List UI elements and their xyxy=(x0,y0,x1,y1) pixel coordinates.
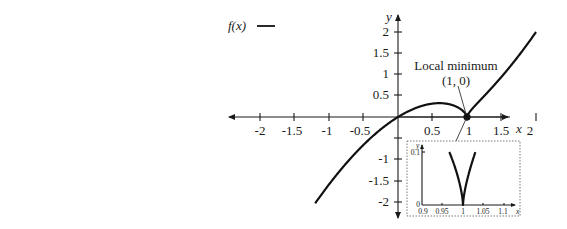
y-tick-label: 0.5 xyxy=(373,87,389,102)
y-tick-label: 2 xyxy=(383,24,390,39)
annotation-title: Local minimum xyxy=(414,58,497,73)
x-tick-label: -1.5 xyxy=(282,123,303,138)
x-tick-label: 1.5 xyxy=(493,123,509,138)
chart-figure: f(x) x y -2 -1.5 -1 -0.5 0.5 1 1.5 2 xyxy=(0,0,567,229)
x-tick-label: 0.5 xyxy=(424,123,440,138)
x-tick-label: 2 xyxy=(527,123,534,138)
inset-x-tick: 1.1 xyxy=(498,207,508,216)
inset-x-label: x xyxy=(515,207,520,216)
legend: f(x) xyxy=(228,18,275,33)
y-tick-label: -1.5 xyxy=(368,173,389,188)
legend-label: f(x) xyxy=(228,18,246,33)
y-axis-label: y xyxy=(384,9,392,24)
x-tick-label: -0.5 xyxy=(350,123,371,138)
x-axis-label: x xyxy=(515,121,522,136)
local-minimum-point xyxy=(463,113,470,120)
y-tick-label: 1 xyxy=(383,66,390,81)
inset-x-tick: 1 xyxy=(461,207,465,216)
annotation-point-label: (1, 0) xyxy=(442,73,470,88)
inset-x-tick: 1.05 xyxy=(476,207,489,216)
x-tick-label: -1 xyxy=(322,123,333,138)
inset-y-tick: 0.1 xyxy=(411,148,421,157)
y-tick-label: -2 xyxy=(378,194,389,209)
inset-zoom: y x 0.1 0 0.9 0.95 1 1.05 1.1 xyxy=(407,141,520,216)
inset-x-tick: 0.9 xyxy=(418,207,428,216)
y-tick-label: 1.5 xyxy=(373,45,389,60)
x-tick-label: 1 xyxy=(466,123,473,138)
x-tick-label: -2 xyxy=(255,123,266,138)
inset-x-tick: 0.95 xyxy=(435,207,448,216)
inset-leader-line xyxy=(456,119,466,141)
y-tick-label: -1 xyxy=(378,151,389,166)
